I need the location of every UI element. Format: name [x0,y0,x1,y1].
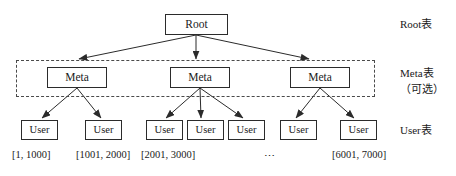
node-user-label: User [289,125,309,136]
edge-root-to-meta-3 [196,35,309,59]
node-user-7[interactable]: User [340,120,377,140]
side-label-user-table: User表 [400,124,432,138]
range-ellipsis: ⋯ [264,151,276,162]
diagram-canvas: Root MetaMetaMeta UserUserUserUserUserUs… [0,0,456,176]
node-user-4[interactable]: User [187,120,224,140]
node-user-5[interactable]: User [228,120,265,140]
node-user-label: User [196,125,216,136]
node-meta-1[interactable]: Meta [47,67,107,88]
edge-root-to-meta-1 [79,35,196,59]
node-user-label: User [349,125,369,136]
range-label-3: [2001, 3000] [141,150,195,161]
node-user-2[interactable]: User [85,120,122,140]
range-label-4: [6001, 7000] [332,150,386,161]
range-label-2: [1001, 2000] [76,150,130,161]
node-user-label: User [94,125,114,136]
node-meta-label: Meta [65,72,89,84]
node-root-label: Root [185,19,207,31]
node-user-1[interactable]: User [21,120,58,140]
node-root[interactable]: Root [165,14,228,35]
side-label-root-table: Root表 [400,18,432,32]
node-user-label: User [30,125,50,136]
node-meta-label: Meta [308,72,332,84]
side-label-meta-table: Meta表（可选） [400,66,444,98]
node-meta-3[interactable]: Meta [290,67,350,88]
node-user-label: User [155,125,175,136]
range-label-1: [1, 1000] [12,150,51,161]
side-label-line: （可选） [400,82,444,98]
node-user-3[interactable]: User [146,120,183,140]
edges-root-to-meta [79,35,309,59]
node-meta-2[interactable]: Meta [170,67,230,88]
node-meta-label: Meta [188,72,212,84]
node-user-label: User [237,125,257,136]
side-label-line: Meta表 [400,66,444,82]
side-label-line: Root表 [400,18,432,32]
node-user-6[interactable]: User [280,120,317,140]
side-label-line: User表 [400,124,432,138]
